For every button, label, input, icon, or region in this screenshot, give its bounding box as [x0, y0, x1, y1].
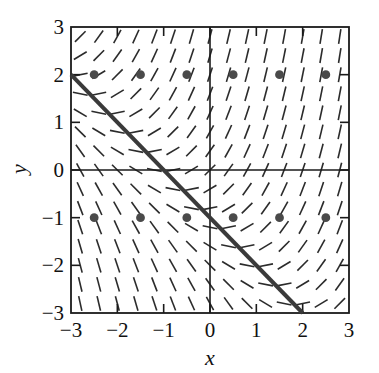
y-tick-label: −2 — [42, 255, 64, 276]
x-axis-label: x — [205, 347, 215, 369]
x-tick-label: 2 — [297, 320, 308, 341]
y-tick-label: −3 — [42, 303, 64, 324]
x-tick-label: −1 — [152, 320, 174, 341]
solution-line — [71, 75, 303, 313]
x-tick-label: −2 — [106, 320, 128, 341]
direction-field-figure: −3−2−10123 3210−1−2−3 x y — [0, 0, 379, 373]
y-tick-label: 1 — [54, 112, 65, 133]
y-tick-label: 0 — [54, 160, 65, 181]
y-tick-label: 3 — [54, 17, 65, 38]
y-axis-label: y — [8, 164, 30, 174]
x-tick-label: 0 — [205, 320, 216, 341]
interior-axes — [71, 27, 349, 313]
x-tick-label: 3 — [344, 320, 355, 341]
x-tick-label: 1 — [251, 320, 262, 341]
y-tick-label: 2 — [54, 64, 65, 85]
y-tick-label: −1 — [42, 207, 64, 228]
